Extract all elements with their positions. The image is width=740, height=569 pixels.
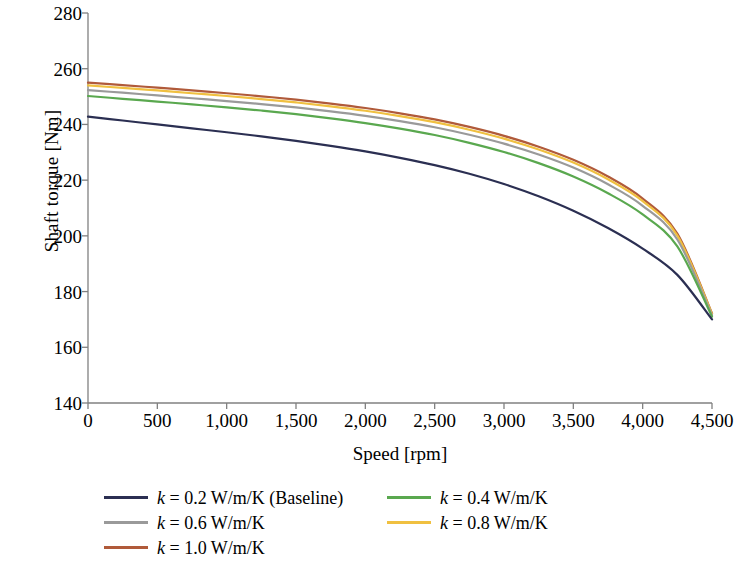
x-axis-tick-label: 500 — [117, 411, 197, 430]
y-axis-tick-label: 280 — [22, 4, 82, 23]
legend-color-swatch — [104, 546, 148, 549]
y-axis-tick-label: 200 — [22, 226, 82, 245]
x-axis-tick-label: 4,000 — [603, 411, 683, 430]
x-axis-tick-label: 0 — [48, 411, 128, 430]
x-axis-title: Speed [rpm] — [88, 443, 712, 465]
x-axis-tick-label: 2,500 — [395, 411, 475, 430]
y-axis-tick-label: 160 — [22, 338, 82, 357]
torque-speed-chart-figure: Shaft torque [Nm] Speed [rpm] 1401601802… — [0, 0, 740, 569]
plot-area — [0, 0, 740, 569]
legend-color-swatch — [104, 496, 148, 499]
x-axis-tick-label: 2,000 — [325, 411, 405, 430]
legend-label: k = 1.0 W/m/K — [157, 539, 265, 557]
series-line — [88, 117, 712, 320]
legend-item: k = 0.8 W/m/K — [387, 512, 548, 533]
series-line — [88, 96, 712, 317]
legend-item: k = 0.2 W/m/K (Baseline) — [104, 487, 343, 508]
chart-legend: k = 0.2 W/m/K (Baseline)k = 0.4 W/m/Kk =… — [104, 487, 664, 561]
y-axis-tick-label: 140 — [22, 394, 82, 413]
x-axis-tick-label: 1,000 — [187, 411, 267, 430]
x-axis-tick-label: 4,500 — [672, 411, 740, 430]
legend-label: k = 0.4 W/m/K — [440, 489, 548, 507]
legend-color-swatch — [387, 521, 431, 524]
legend-item: k = 0.4 W/m/K — [387, 487, 548, 508]
legend-label: k = 0.2 W/m/K (Baseline) — [157, 489, 343, 507]
legend-item: k = 1.0 W/m/K — [104, 537, 265, 558]
legend-color-swatch — [387, 496, 431, 499]
legend-item: k = 0.6 W/m/K — [104, 512, 265, 533]
y-axis-tick-label: 240 — [22, 115, 82, 134]
legend-color-swatch — [104, 521, 148, 524]
y-axis-tick-label: 260 — [22, 59, 82, 78]
series-line — [88, 90, 712, 315]
y-axis-tick-label: 180 — [22, 282, 82, 301]
y-axis-tick-labels: 140160180200220240260280 — [18, 0, 82, 569]
legend-label: k = 0.8 W/m/K — [440, 514, 548, 532]
legend-label: k = 0.6 W/m/K — [157, 514, 265, 532]
x-axis-tick-label: 3,000 — [464, 411, 544, 430]
x-axis-tick-label: 3,500 — [533, 411, 613, 430]
y-axis-tick-label: 220 — [22, 171, 82, 190]
x-axis-tick-label: 1,500 — [256, 411, 336, 430]
